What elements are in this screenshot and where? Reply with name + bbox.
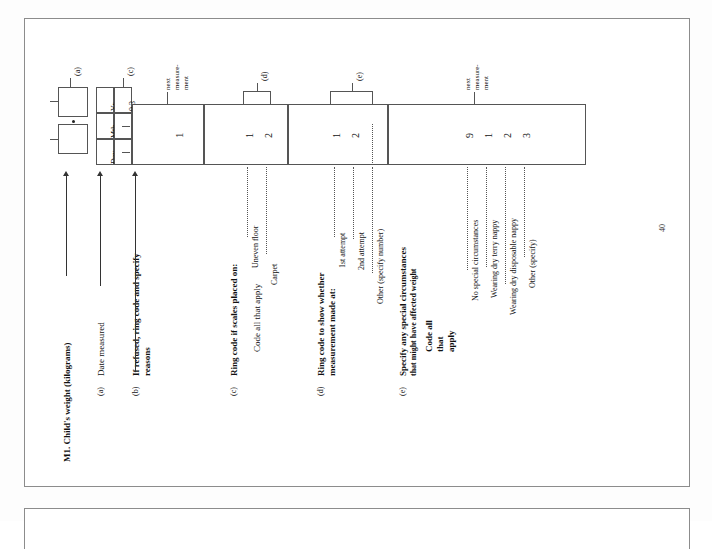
- question-a-label: Date measured: [96, 322, 106, 376]
- refusal-code-cell[interactable]: [132, 104, 204, 165]
- question-e-label: Specify any special circumstances: [398, 247, 408, 376]
- arrow-head-b: [132, 171, 138, 176]
- option-e-label-1: No special circumstances: [471, 220, 480, 301]
- arrow-line-main: [66, 176, 67, 276]
- option-e-code-4: 3: [521, 133, 532, 138]
- options-c-bracket: [243, 91, 271, 104]
- question-e-instruction-3: apply: [446, 330, 456, 352]
- option-c-code-2: 2: [263, 133, 274, 138]
- option-d-other-divider: [372, 124, 373, 165]
- option-d-label-3: Other (specify number): [376, 229, 385, 304]
- question-e-instruction-1: Code all: [424, 320, 434, 352]
- option-e-leader-2: [486, 167, 487, 267]
- date-day-tick: [122, 152, 130, 153]
- marker-d-label: (d): [260, 72, 269, 81]
- option-e-label-3: Wearing dry disposable nappy: [509, 218, 518, 315]
- question-c-instruction: Code all that apply: [252, 284, 262, 352]
- question-c-letter: (c): [229, 387, 238, 396]
- arrow-head-a: [97, 171, 103, 176]
- marker-e-stem: [352, 83, 353, 92]
- option-e-label-2: Wearing dry terry nappy: [490, 220, 499, 298]
- question-e-instruction-2: that: [435, 337, 445, 353]
- option-d-code-1: 1: [331, 133, 342, 138]
- option-c-leader-1: [247, 167, 248, 237]
- refusal-code-value: 1: [173, 133, 185, 139]
- marker-a-label: (a): [73, 67, 82, 76]
- page-number: 40: [658, 224, 667, 232]
- arrow-head-main: [63, 171, 69, 176]
- weight-box-1[interactable]: [58, 87, 88, 117]
- arrow-line-a: [100, 176, 101, 286]
- weight-box-2[interactable]: [58, 124, 88, 154]
- option-c-label-2: Carpet: [270, 264, 279, 285]
- options-e-annotation-stem: [474, 92, 475, 104]
- option-e-leader-1: [467, 167, 468, 270]
- question-d-label-line2: measurement made at:: [327, 288, 337, 376]
- question-d-label: Ring code to show whether: [316, 273, 326, 377]
- option-e-leader-3: [505, 167, 506, 284]
- refusal-annotation-stem: [167, 92, 168, 104]
- refusal-annotation-line1: next: [164, 78, 172, 90]
- date-header-day: Day: [96, 139, 114, 165]
- page-title: M1. Child's weight (kilograms): [62, 342, 72, 462]
- marker-d-stem: [257, 83, 258, 92]
- weight-box-2-lead: [50, 139, 59, 140]
- weight-box-1-lead: [50, 101, 59, 102]
- option-d-leader-3: [372, 167, 373, 273]
- marker-e-label: (e): [355, 72, 364, 81]
- option-d-leader-1: [334, 167, 335, 237]
- date-header-yr: Yr: [96, 87, 114, 113]
- question-d-letter: (d): [316, 387, 325, 396]
- option-c-leader-2: [266, 167, 267, 254]
- marker-c-label: (c): [126, 67, 135, 76]
- question-a-letter: (a): [96, 387, 105, 396]
- option-d-label-2: 2nd attempt: [357, 232, 366, 270]
- marker-c-stem: [123, 78, 124, 87]
- question-c-label: Ring code if scales placed on:: [229, 264, 239, 376]
- date-header-mth: Mth: [96, 113, 114, 139]
- question-e-label-line2: that might have affected weight: [409, 268, 418, 376]
- marker-a-stem: [70, 78, 71, 87]
- option-e-code-1: 9: [464, 133, 475, 138]
- refusal-annotation-line3: ment: [182, 76, 190, 90]
- option-d-leader-2: [353, 167, 354, 239]
- options-e-annotation-line2: measure-: [473, 64, 481, 90]
- option-c-label-1: Uneven floor: [251, 226, 260, 268]
- option-e-leader-4: [524, 167, 525, 257]
- question-b-label: If refused, ring code and specify: [131, 253, 141, 376]
- question-e-letter: (e): [398, 387, 407, 396]
- date-value-yr[interactable]: 9 3: [114, 87, 132, 113]
- arrow-line-b: [135, 176, 136, 371]
- decimal-point-icon: [72, 120, 75, 123]
- options-e-annotation-line1: next: [464, 78, 472, 90]
- option-e-label-4: Other (specify): [528, 239, 537, 288]
- question-b-label-line2: reasons: [142, 347, 152, 376]
- options-e-annotation-line3: ment: [482, 76, 490, 90]
- option-e-code-2: 1: [483, 133, 494, 138]
- option-e-code-3: 2: [502, 133, 513, 138]
- page-sheet-next: [24, 508, 690, 549]
- option-c-code-1: 1: [244, 133, 255, 138]
- option-d-code-2: 2: [350, 133, 361, 138]
- date-mth-tick: [122, 126, 130, 127]
- refusal-annotation-line2: measure-: [173, 64, 181, 90]
- question-b-letter: (b): [131, 387, 140, 396]
- option-d-label-1: 1st attempt: [338, 233, 347, 268]
- options-d-bracket: [330, 91, 373, 104]
